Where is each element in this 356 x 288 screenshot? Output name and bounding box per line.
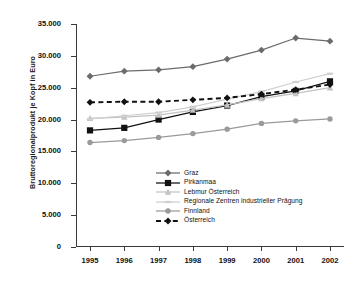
legend-item[interactable]: Regionale Zentren industrieller Prägung: [155, 197, 303, 207]
data-point-marker: [189, 63, 196, 70]
y-tick-label: 25.000: [0, 83, 61, 92]
data-point-marker: [155, 111, 161, 113]
data-point-marker: [87, 99, 94, 106]
series-graz: [87, 35, 334, 80]
legend-item-label: Österreich: [181, 217, 215, 224]
legend-item[interactable]: Pirkanmaa: [155, 178, 303, 188]
data-point-marker: [165, 201, 171, 203]
series-regionale-zentren-industrieller-pr-gung: [87, 73, 333, 120]
data-point-marker: [87, 140, 92, 145]
data-point-marker: [156, 135, 161, 140]
x-tick-mark: [193, 247, 194, 251]
y-tick-label: 10.000: [0, 178, 61, 187]
legend-item[interactable]: Graz: [155, 168, 303, 178]
legend-item-label: Graz: [181, 170, 199, 177]
y-tick-label: 35.000: [0, 19, 61, 28]
legend-item-label: Regionale Zentren industrieller Prägung: [181, 198, 303, 205]
series-line: [90, 74, 330, 119]
data-point-marker: [122, 138, 127, 143]
data-point-marker: [165, 209, 170, 214]
legend-marker-icon: [155, 197, 181, 207]
data-point-marker: [87, 118, 93, 120]
x-tick-mark: [330, 247, 331, 251]
data-point-marker: [87, 73, 94, 80]
y-tick-mark: [71, 247, 76, 248]
data-point-marker: [293, 81, 299, 83]
data-point-marker: [165, 170, 172, 177]
legend-marker-icon: [155, 187, 181, 197]
data-point-marker: [224, 126, 229, 131]
x-tick-label: 2002: [310, 256, 350, 265]
legend-item-label: Pirkanmaa: [181, 179, 216, 186]
legend-item-label: Finnland: [181, 208, 210, 215]
legend-item[interactable]: Lebmur Österreich: [155, 187, 303, 197]
data-point-marker: [121, 98, 128, 105]
legend-item[interactable]: Finnland: [155, 206, 303, 216]
chart-legend: GrazPirkanmaaLebmur ÖsterreichRegionale …: [155, 168, 303, 226]
legend-marker-icon: [155, 178, 181, 188]
x-tick-mark: [159, 247, 160, 251]
legend-marker-icon: [155, 216, 181, 226]
data-point-marker: [224, 56, 231, 63]
y-tick-label: 30.000: [0, 51, 61, 60]
legend-item-label: Lebmur Österreich: [181, 189, 239, 196]
data-point-marker: [327, 116, 332, 121]
data-point-marker: [259, 121, 264, 126]
data-point-marker: [293, 118, 298, 123]
data-point-marker: [190, 131, 195, 136]
data-point-marker: [165, 179, 171, 185]
legend-marker-icon: [155, 206, 181, 216]
data-point-marker: [165, 218, 172, 225]
data-point-marker: [327, 38, 334, 45]
data-point-marker: [121, 115, 127, 117]
data-point-marker: [121, 68, 128, 75]
series-pirkanmaa: [87, 78, 333, 133]
data-point-marker: [87, 127, 93, 133]
x-tick-mark: [124, 247, 125, 251]
data-point-marker: [155, 98, 162, 105]
legend-item[interactable]: Österreich: [155, 216, 303, 226]
data-point-marker: [189, 96, 196, 103]
x-tick-mark: [296, 247, 297, 251]
data-point-marker: [121, 125, 127, 131]
legend-marker-icon: [155, 168, 181, 178]
y-tick-label: 0: [0, 242, 61, 251]
data-point-marker: [327, 73, 333, 75]
y-tick-label: 15.000: [0, 146, 61, 155]
x-tick-mark: [90, 247, 91, 251]
y-tick-label: 5.000: [0, 210, 61, 219]
data-point-marker: [155, 66, 162, 73]
x-tick-mark: [261, 247, 262, 251]
x-tick-mark: [227, 247, 228, 251]
data-point-marker: [292, 35, 299, 42]
chart-container: Bruttoregionalprodukt je Kopf in Euro 05…: [0, 0, 356, 288]
y-tick-label: 20.000: [0, 115, 61, 124]
data-point-marker: [258, 47, 265, 54]
data-point-marker: [190, 106, 196, 108]
